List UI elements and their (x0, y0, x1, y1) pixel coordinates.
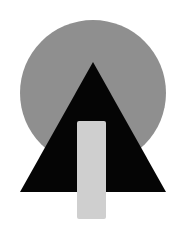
diagram-canvas (0, 0, 186, 231)
light-gray-bar (77, 121, 106, 219)
shape-diagram (0, 0, 186, 231)
